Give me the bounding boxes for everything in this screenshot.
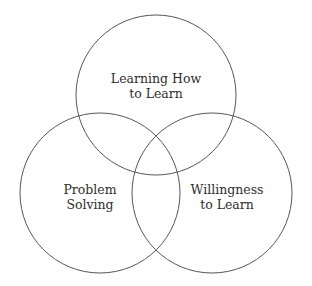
venn-diagram: Learning How to Learn Problem Solving Wi… — [0, 0, 312, 286]
label-learning-how-to-learn-line2: to Learn — [129, 86, 183, 101]
venn-diagram-svg: Learning How to Learn Problem Solving Wi… — [0, 0, 312, 286]
label-problem-solving-line1: Problem — [63, 182, 116, 197]
label-willingness-to-learn-line1: Willingness — [191, 182, 264, 197]
label-problem-solving-line2: Solving — [66, 197, 113, 212]
label-learning-how-to-learn-line1: Learning How — [111, 71, 202, 86]
label-willingness-to-learn-line2: to Learn — [200, 197, 254, 212]
